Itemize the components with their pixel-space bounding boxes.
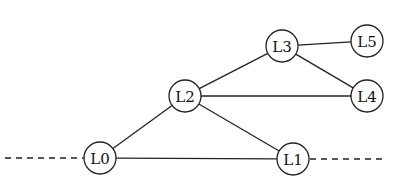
node-l0: L0 <box>84 142 116 174</box>
nodes-layer: L0L1L2L3L4L5 <box>84 25 383 175</box>
node-l5: L5 <box>351 25 383 57</box>
edge-l2-l3 <box>199 53 268 88</box>
node-label: L1 <box>283 151 303 169</box>
edge-l2-l1 <box>199 104 279 151</box>
node-label: L2 <box>175 88 195 106</box>
node-l3: L3 <box>266 30 298 62</box>
node-label: L4 <box>357 88 377 106</box>
node-l1: L1 <box>277 143 309 175</box>
node-l2: L2 <box>169 80 201 112</box>
node-label: L5 <box>357 33 377 51</box>
node-label: L3 <box>272 38 292 56</box>
edge-l0-l1 <box>116 158 277 159</box>
node-label: L0 <box>90 150 110 168</box>
network-diagram: L0L1L2L3L4L5 <box>0 0 403 193</box>
node-l4: L4 <box>351 80 383 112</box>
edge-l0-l2 <box>113 105 172 148</box>
edge-l3-l5 <box>298 42 351 45</box>
diagram-svg: L0L1L2L3L4L5 <box>0 0 403 193</box>
edge-l3-l4 <box>296 54 353 88</box>
